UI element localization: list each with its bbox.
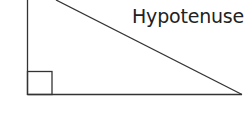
hypotenuse-label: Hypotenuse [132,4,244,28]
right-angle-marker [28,72,53,95]
